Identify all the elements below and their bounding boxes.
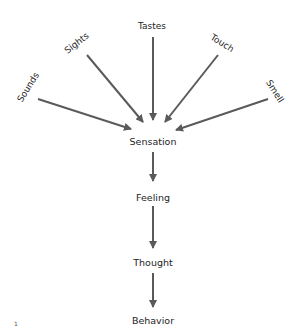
input-label-tastes: Tastes	[138, 22, 166, 31]
page-mark: 1	[14, 320, 18, 327]
node-feeling: Feeling	[136, 193, 170, 203]
arrow-smell-to-sensation	[176, 99, 268, 130]
arrow-sounds-to-sensation	[38, 99, 131, 129]
arrow-sights-to-sensation	[87, 55, 143, 122]
diagram-canvas: Sounds Sights Tastes Touch Smell Sensati…	[0, 0, 301, 332]
arrows-layer	[0, 0, 301, 332]
node-thought: Thought	[133, 258, 172, 268]
node-behavior: Behavior	[132, 316, 174, 326]
node-sensation: Sensation	[130, 137, 177, 147]
arrow-touch-to-sensation	[165, 55, 218, 122]
